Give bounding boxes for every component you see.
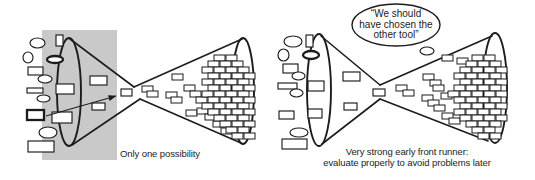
- left-brick: [232, 133, 243, 139]
- left-brick: [171, 97, 182, 103]
- right-brick: [490, 133, 501, 139]
- right-brick: [478, 73, 489, 79]
- right-candidate-rect: [282, 139, 307, 149]
- right-brick: [454, 73, 465, 79]
- right-candidate-rect: [283, 64, 298, 73]
- left-candidate-rect-highlighted: [27, 110, 44, 120]
- right-brick: [472, 103, 483, 109]
- right-brick: [496, 91, 507, 97]
- right-brick: [496, 67, 507, 73]
- left-brick: [214, 91, 225, 97]
- left-brick: [220, 73, 231, 79]
- left-candidate-ellipse: [38, 75, 52, 83]
- right-brick: [472, 115, 483, 121]
- left-candidate-rect: [56, 84, 74, 94]
- left-brick: [232, 85, 243, 91]
- right-brick: [466, 109, 477, 115]
- left-brick: [226, 55, 237, 61]
- right-brick: [466, 121, 477, 127]
- right-brick: [448, 91, 459, 97]
- left-brick: [226, 127, 237, 133]
- right-brick: [460, 67, 471, 73]
- left-brick: [214, 79, 225, 85]
- left-candidate-rect: [56, 35, 63, 46]
- right-brick: [484, 127, 495, 133]
- right-speech-bubble-tail: [420, 47, 434, 55]
- right-brick: [434, 105, 445, 111]
- left-brick: [226, 115, 237, 121]
- left-candidate-ellipse-highlighted: [47, 56, 63, 63]
- left-brick: [232, 97, 243, 103]
- left-brick: [226, 91, 237, 97]
- left-brick: [244, 73, 255, 79]
- right-brick: [478, 109, 489, 115]
- left-brick: [208, 73, 219, 79]
- left-candidate-ellipse: [37, 95, 50, 102]
- left-brick: [196, 97, 207, 103]
- left-brick: [220, 109, 231, 115]
- right-candidate-ellipse: [284, 36, 302, 47]
- right-candidate-ellipse: [292, 72, 305, 80]
- right-candidate-ellipse: [290, 128, 308, 137]
- left-brick: [220, 97, 231, 103]
- right-brick: [403, 90, 414, 96]
- right-brick: [460, 91, 471, 97]
- left-brick: [214, 67, 225, 73]
- right-candidate-rect: [308, 109, 322, 118]
- left-candidate-rect: [92, 103, 105, 110]
- left-candidate-ellipse: [30, 38, 45, 48]
- right-brick: [472, 55, 483, 61]
- right-brick: [472, 67, 483, 73]
- left-brick: [226, 103, 237, 109]
- right-funnel-caption: Very strong early front runner: evaluate…: [312, 146, 502, 168]
- right-brick: [423, 74, 434, 80]
- right-brick: [478, 85, 489, 91]
- left-brick: [238, 127, 249, 133]
- right-brick: [490, 109, 501, 115]
- left-brick: [220, 121, 231, 127]
- right-brick: [466, 73, 477, 79]
- right-brick: [484, 55, 495, 61]
- right-brick: [478, 97, 489, 103]
- left-brick: [220, 85, 231, 91]
- right-candidate-rect: [306, 35, 313, 47]
- right-brick: [466, 61, 477, 67]
- right-brick: [478, 133, 489, 139]
- left-brick: [244, 133, 255, 139]
- left-brick: [220, 61, 231, 67]
- left-brick: [226, 67, 237, 73]
- left-candidate-rect: [27, 88, 43, 93]
- right-brick: [484, 115, 495, 121]
- funnel-selection-diagram: Only one possibility Very strong early f…: [0, 0, 535, 180]
- left-brick: [226, 79, 237, 85]
- speech-bubble-line3: other tool”: [348, 30, 444, 41]
- right-brick: [484, 67, 495, 73]
- right-brick: [454, 85, 465, 91]
- right-brick: [454, 97, 465, 103]
- left-brick: [202, 91, 213, 97]
- right-candidate-rect: [344, 103, 357, 110]
- left-brick: [244, 121, 255, 127]
- left-brick: [214, 55, 225, 61]
- left-candidate-rect: [90, 76, 107, 85]
- right-brick: [466, 85, 477, 91]
- left-brick: [186, 110, 197, 116]
- left-brick: [232, 109, 243, 115]
- right-brick: [496, 79, 507, 85]
- right-brick: [460, 115, 471, 121]
- right-candidate-ellipse-highlighted: [303, 51, 319, 59]
- right-funnel-caption-line2: evaluate properly to avoid problems late…: [312, 157, 502, 168]
- right-brick: [454, 109, 465, 115]
- speech-bubble-line1: “We should: [348, 9, 444, 20]
- left-brick: [214, 115, 225, 121]
- right-brick: [460, 79, 471, 85]
- left-brick: [232, 121, 243, 127]
- right-candidate-rect: [279, 111, 294, 119]
- right-brick: [484, 79, 495, 85]
- right-brick: [466, 97, 477, 103]
- left-brick: [238, 91, 249, 97]
- left-candidate-rect: [28, 67, 43, 75]
- right-brick: [496, 115, 507, 121]
- left-brick: [208, 61, 219, 67]
- right-candidate-rect: [343, 72, 360, 81]
